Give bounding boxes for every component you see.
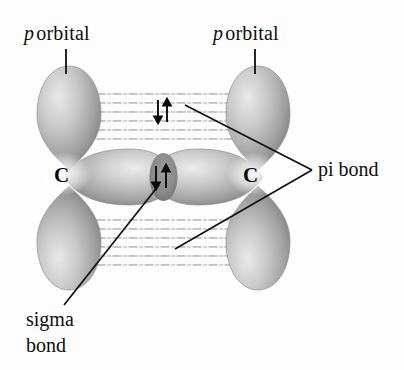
label-orbital-word-right: orbital [225, 22, 279, 44]
pi-overlap-lower [92, 216, 235, 266]
label-sigma-bond: sigma bond [26, 306, 74, 358]
label-p-orbital-left: porbital [24, 22, 90, 45]
label-p-italic-right: p [213, 22, 225, 44]
label-sigma-bond-line1: sigma [26, 306, 74, 332]
pi-overlap-upper [92, 90, 235, 140]
p-orbital-lower-left [37, 186, 101, 290]
label-sigma-bond-line2: bond [26, 332, 74, 358]
label-orbital-word-left: orbital [36, 22, 90, 44]
atom-label-carbon-left: C [54, 163, 69, 188]
atom-label-carbon-right: C [243, 163, 258, 188]
sigma-overlap-region [150, 153, 178, 201]
orbital-diagram-figure: porbital porbital pi bond sigma bond C C [0, 0, 404, 370]
label-p-italic-left: p [24, 22, 36, 44]
label-p-orbital-right: porbital [213, 22, 279, 45]
label-pi-bond: pi bond [318, 158, 379, 181]
